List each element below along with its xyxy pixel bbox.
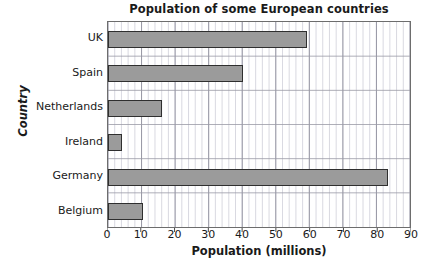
x-axis-title: Population (millions) [107, 244, 411, 258]
y-tick-label-uk: UK [88, 32, 103, 44]
y-axis-tick-labels: BelgiumGermanyIrelandNetherlandsSpainUK [0, 21, 440, 228]
y-tick-label-netherlands: Netherlands [36, 101, 103, 113]
y-axis-title: Country [16, 66, 30, 156]
chart-title: Population of some European countries [107, 2, 411, 16]
chart-figure: Population of some European countries Be… [0, 0, 440, 273]
y-tick-label-spain: Spain [72, 67, 103, 79]
y-tick-label-belgium: Belgium [58, 205, 103, 217]
y-tick-label-ireland: Ireland [65, 136, 103, 148]
x-axis-tick-labels: 0102030405060708090 [107, 228, 411, 244]
y-tick-label-germany: Germany [52, 170, 103, 182]
x-tick-label-90: 90 [391, 228, 431, 241]
